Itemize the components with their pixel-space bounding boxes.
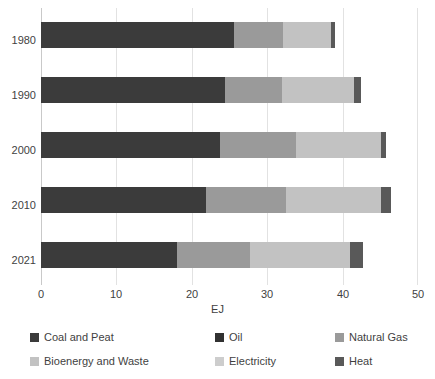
bar-segment-natural-gas: [234, 22, 283, 48]
chart-legend: Coal and Peat Oil Natural Gas Bioenergy …: [30, 331, 430, 375]
bar-segment-natural-gas: [206, 187, 286, 213]
legend-label-natural-gas: Natural Gas: [349, 331, 408, 343]
y-tick-label-2000: 2000: [0, 144, 36, 156]
bar-segment-coal-and-peat: [41, 132, 220, 158]
bar-row-2000: [41, 132, 418, 158]
bar-segment-natural-gas: [225, 77, 282, 103]
bar-segment-coal-and-peat: [41, 187, 206, 213]
legend-swatch-oil: [215, 333, 224, 342]
x-axis-tick-labels: 0 10 20 30 40 50: [0, 288, 435, 304]
bar-segment-bioenergy-and-waste: [296, 132, 381, 158]
bar-segment-bioenergy-and-waste: [283, 22, 331, 48]
stacked-bar: [41, 22, 335, 48]
legend-swatch-natural-gas: [335, 333, 344, 342]
bar-row-2010: [41, 187, 418, 213]
x-tick-label-30: 30: [247, 288, 287, 301]
x-tick-label-10: 10: [96, 288, 136, 301]
legend-label-electricity: Electricity: [229, 355, 276, 367]
bar-segment-heat: [354, 77, 361, 103]
y-tick-label-1990: 1990: [0, 89, 36, 101]
stacked-bar-chart: 1980 1990 2000 2010 2021 0 10 20 30 40 5…: [0, 0, 435, 379]
x-tick-label-20: 20: [172, 288, 212, 301]
plot-area: [41, 8, 418, 285]
legend-swatch-coal-and-peat: [30, 333, 39, 342]
legend-label-oil: Oil: [229, 331, 242, 343]
stacked-bar: [41, 132, 386, 158]
bar-segment-heat: [331, 22, 335, 48]
bar-segment-bioenergy-and-waste: [286, 187, 381, 213]
y-tick-label-1980: 1980: [0, 34, 36, 46]
bar-segment-coal-and-peat: [41, 77, 225, 103]
legend-swatch-bioenergy-and-waste: [30, 357, 39, 366]
bar-row-1990: [41, 77, 418, 103]
x-axis-title: EJ: [0, 303, 435, 315]
bar-segment-bioenergy-and-waste: [250, 242, 350, 268]
legend-label-coal-and-peat: Coal and Peat: [44, 331, 114, 343]
y-tick-label-2021: 2021: [0, 254, 36, 266]
legend-label-heat: Heat: [349, 355, 372, 367]
bar-segment-natural-gas: [220, 132, 296, 158]
legend-item-coal-and-peat[interactable]: Coal and Peat: [30, 331, 114, 343]
legend-item-heat[interactable]: Heat: [335, 355, 372, 367]
bar-segment-bioenergy-and-waste: [282, 77, 354, 103]
legend-swatch-heat: [335, 357, 344, 366]
legend-swatch-electricity: [215, 357, 224, 366]
bar-row-2021: [41, 242, 418, 268]
y-axis-tick-labels: 1980 1990 2000 2010 2021: [0, 8, 36, 285]
bar-segment-coal-and-peat: [41, 22, 234, 48]
x-tick-label-40: 40: [323, 288, 363, 301]
bar-segment-coal-and-peat: [41, 242, 177, 268]
stacked-bar: [41, 77, 361, 103]
stacked-bar: [41, 242, 363, 268]
x-tick-label-0: 0: [21, 288, 61, 301]
bar-segment-natural-gas: [177, 242, 250, 268]
bar-segment-heat: [381, 187, 391, 213]
legend-item-bioenergy-and-waste[interactable]: Bioenergy and Waste: [30, 355, 149, 367]
x-tick-label-50: 50: [398, 288, 435, 301]
bar-row-1980: [41, 22, 418, 48]
bar-segment-heat: [381, 132, 386, 158]
legend-item-natural-gas[interactable]: Natural Gas: [335, 331, 408, 343]
y-tick-label-2010: 2010: [0, 199, 36, 211]
legend-label-bioenergy-and-waste: Bioenergy and Waste: [44, 355, 149, 367]
stacked-bar: [41, 187, 391, 213]
bar-segment-heat: [350, 242, 363, 268]
legend-item-oil[interactable]: Oil: [215, 331, 242, 343]
legend-item-electricity[interactable]: Electricity: [215, 355, 276, 367]
